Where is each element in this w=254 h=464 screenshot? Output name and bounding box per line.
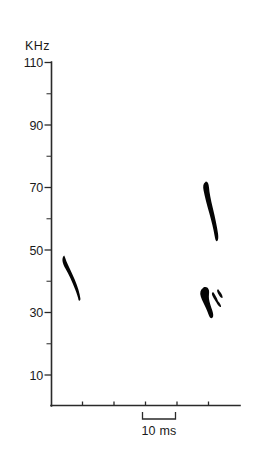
x-axis bbox=[51, 402, 240, 406]
y-axis-label-90: 90 bbox=[29, 119, 43, 133]
scale-bar-bracket bbox=[143, 412, 176, 419]
y-axis-unit-label: KHz bbox=[25, 39, 50, 53]
y-axis-label-30: 30 bbox=[29, 306, 43, 320]
spectrogram-figure: 110 90 70 50 30 10 KHz 10 ms bbox=[0, 0, 254, 464]
y-axis: 110 90 70 50 30 10 KHz bbox=[24, 39, 52, 406]
y-axis-label-110: 110 bbox=[24, 56, 44, 70]
data-traces bbox=[62, 181, 222, 318]
y-axis-label-70: 70 bbox=[29, 181, 43, 195]
trace-call-1-left-sweep bbox=[62, 256, 80, 301]
trace-call-3-satellite-3 bbox=[216, 300, 221, 307]
trace-call-2-upper-right-sweep bbox=[203, 181, 218, 241]
scale-bar-label: 10 ms bbox=[141, 424, 176, 438]
time-scale-bar: 10 ms bbox=[141, 412, 176, 438]
spectrogram-canvas: 110 90 70 50 30 10 KHz 10 ms bbox=[0, 0, 254, 464]
y-axis-label-10: 10 bbox=[29, 369, 43, 383]
trace-call-3-lower-right-main bbox=[200, 287, 213, 318]
y-axis-label-50: 50 bbox=[29, 244, 43, 258]
trace-call-3-satellite-2 bbox=[217, 289, 222, 298]
